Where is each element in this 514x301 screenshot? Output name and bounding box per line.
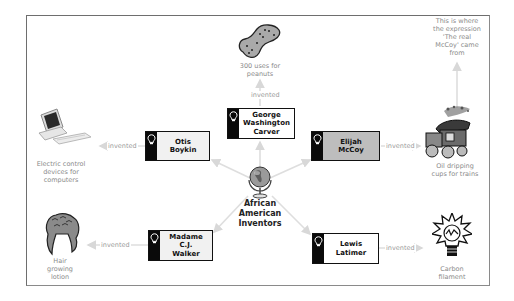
note-real-mccoy: This is where the expression 'The real M… [422, 17, 492, 57]
node-stripe [146, 132, 157, 160]
node-stripe [313, 234, 324, 263]
connector-label-latimer: invented [385, 244, 416, 252]
inventor-name: Madame C.J. Walker [160, 231, 212, 260]
central-topic-label: African American Inventors [230, 199, 290, 229]
lightbulb-icon [229, 111, 238, 122]
inventor-name: Lewis Latimer [324, 234, 378, 263]
computer-icon [35, 107, 97, 147]
lightbulb-icon [314, 236, 323, 247]
inventor-name: Otis Boykin [157, 132, 209, 160]
connector-label-walker: invented [100, 241, 131, 249]
inventor-name: George Washington Carver [239, 109, 294, 138]
lightbulb-icon [313, 134, 322, 145]
invention-label-walker: Hair growing lotion [35, 257, 85, 281]
invention-label-mccoy: Oil dripping cups for trains [422, 162, 488, 178]
inventor-name: Elijah McCoy [323, 132, 379, 160]
connector-label-boykin: invented [107, 142, 138, 150]
node-stripe [228, 109, 239, 138]
inventor-node-boykin[interactable]: Otis Boykin [145, 131, 210, 161]
connector-label-carver: invented [250, 91, 281, 99]
invention-label-boykin: Electric control devices for computers [30, 160, 92, 184]
inventor-node-latimer[interactable]: Lewis Latimer [312, 233, 379, 264]
node-stripe [149, 231, 160, 260]
lightbulb-icon [147, 134, 156, 145]
lightbulb-icon [150, 233, 159, 244]
globe-icon [243, 163, 277, 201]
train-icon [418, 103, 480, 161]
invention-label-latimer: Carbon filament [425, 265, 479, 281]
inventor-node-mccoy[interactable]: Elijah McCoy [311, 131, 380, 161]
inventor-node-walker[interactable]: Madame C.J. Walker [148, 230, 213, 261]
peanut-icon [235, 22, 285, 62]
hair-icon [42, 212, 82, 256]
inventor-node-carver[interactable]: George Washington Carver [227, 108, 295, 139]
invention-label-carver: 300 uses for peanuts [225, 62, 295, 78]
connector-label-mccoy: invented [385, 142, 416, 150]
lightbulb-filament-icon [432, 213, 472, 261]
node-stripe [312, 132, 323, 160]
